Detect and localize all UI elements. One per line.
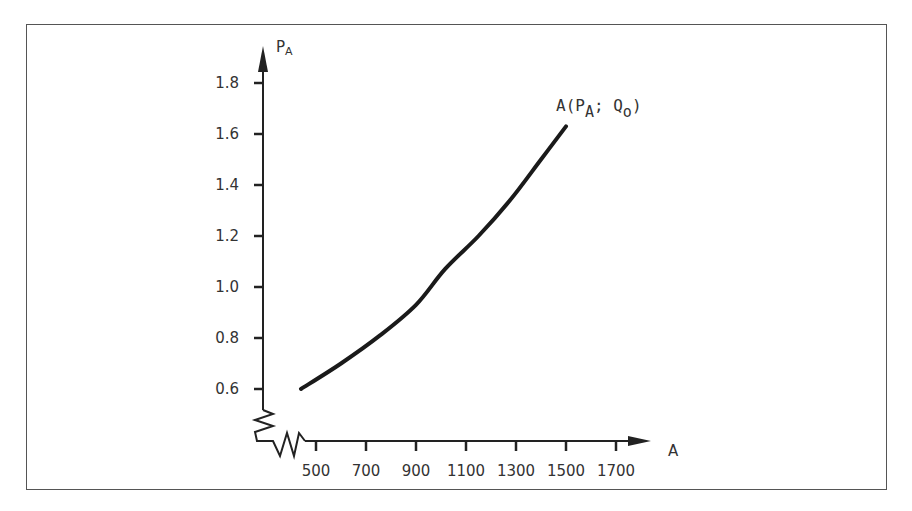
- x-tick-label: 700: [352, 462, 381, 480]
- y-axis-break-icon: [255, 410, 273, 441]
- y-axis-title: PA: [276, 38, 293, 58]
- y-tick-label: 1.4: [215, 176, 239, 194]
- x-axis-title: A: [668, 442, 679, 460]
- y-tick-label: 1.6: [215, 125, 239, 143]
- y-tick-label: 1.2: [215, 227, 239, 245]
- y-tick-label: 1.0: [215, 278, 239, 296]
- x-tick-label: 1700: [597, 462, 635, 480]
- curve-series: [301, 126, 566, 389]
- x-tick-label: 1100: [447, 462, 485, 480]
- x-tick-label: 1300: [497, 462, 535, 480]
- x-tick-label: 1500: [547, 462, 585, 480]
- curve-line: [301, 126, 566, 389]
- x-tick-label: 900: [402, 462, 431, 480]
- y-tick-label: 0.6: [215, 380, 239, 398]
- ticks: 0.60.81.01.21.41.61.85007009001100130015…: [215, 74, 635, 480]
- y-tick-label: 1.8: [215, 74, 239, 92]
- x-tick-label: 500: [302, 462, 331, 480]
- curve-label: A(PA; Qo): [556, 96, 642, 121]
- y-tick-label: 0.8: [215, 329, 239, 347]
- y-axis-arrow-icon: [258, 46, 268, 72]
- x-axis-arrow-icon: [628, 436, 651, 446]
- chart-plot: 0.60.81.01.21.41.61.85007009001100130015…: [0, 0, 912, 511]
- x-axis-break-icon: [267, 433, 305, 456]
